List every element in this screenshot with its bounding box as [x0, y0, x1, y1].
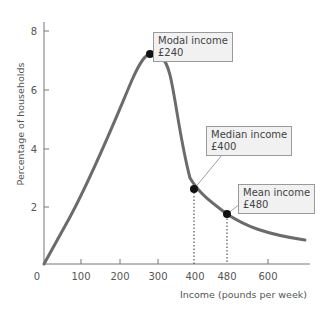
x-tick-0: 0: [34, 271, 40, 282]
median-callout-value: £400: [211, 141, 287, 153]
x-tick-600: 600: [258, 271, 277, 282]
modal-callout-label: Modal income: [158, 35, 228, 47]
y-ticks: [44, 31, 49, 207]
x-axis-label: Income (pounds per week): [180, 289, 307, 300]
median-leader: [194, 155, 222, 189]
x-tick-100: 100: [71, 271, 90, 282]
mean-income-callout: Mean income £480: [238, 184, 315, 214]
y-tick-6: 6: [31, 85, 37, 96]
mean-callout-value: £480: [243, 199, 310, 211]
y-tick-4: 4: [31, 144, 37, 155]
x-tick-400: 400: [185, 271, 204, 282]
modal-income-callout: Modal income £240: [153, 32, 233, 62]
y-tick-2: 2: [31, 202, 37, 213]
y-axis-label: Percentage of households: [15, 63, 26, 186]
y-tick-8: 8: [31, 26, 37, 37]
x-tick-480: 480: [217, 271, 236, 282]
median-callout-label: Median income: [211, 129, 287, 141]
x-ticks: [81, 259, 268, 264]
median-point: [190, 185, 198, 193]
x-tick-200: 200: [110, 271, 129, 282]
modal-callout-value: £240: [158, 47, 228, 59]
mean-callout-label: Mean income: [243, 187, 310, 199]
mean-point: [223, 210, 231, 218]
median-income-callout: Median income £400: [206, 126, 292, 156]
x-tick-300: 300: [148, 271, 167, 282]
distribution-curve: [44, 53, 305, 264]
